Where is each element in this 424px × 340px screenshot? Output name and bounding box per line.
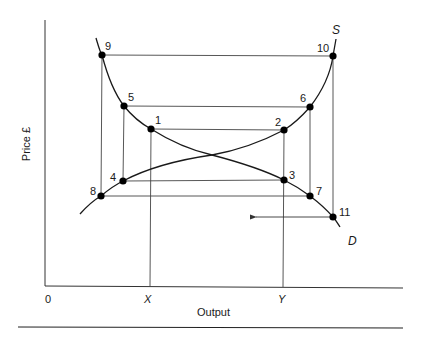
point-label-4: 4 [110, 172, 116, 183]
point-2 [280, 126, 287, 133]
point-label-11: 11 [339, 207, 350, 218]
point-label-5: 5 [128, 92, 134, 103]
point-1 [147, 125, 154, 132]
point-label-8: 8 [90, 186, 96, 197]
line-5-6 [124, 106, 310, 107]
point-5 [120, 102, 127, 109]
line-1-X [150, 129, 151, 286]
line-2-Y [283, 130, 284, 287]
line-1-2 [151, 129, 284, 130]
x-axis [45, 286, 403, 288]
point-8 [97, 192, 104, 199]
point-label-9: 9 [105, 41, 111, 52]
point-label-1: 1 [155, 115, 161, 126]
point-6 [306, 103, 313, 110]
point-4 [119, 177, 126, 184]
cobweb-diagram [0, 0, 424, 340]
x-axis-label: Output [197, 307, 230, 318]
point-11 [329, 213, 336, 220]
line-4-3 [123, 180, 284, 181]
cobweb-lines [101, 55, 333, 287]
point-label-10: 10 [317, 43, 329, 54]
y-axis-label: Price £ [20, 124, 32, 164]
line-9-10 [102, 55, 333, 56]
x-tick-label-X: X [144, 294, 151, 305]
point-label-3: 3 [289, 170, 295, 181]
origin-label: 0 [45, 294, 51, 305]
point-7 [306, 192, 313, 199]
point-10 [329, 52, 336, 59]
point-3 [280, 176, 287, 183]
point-label-2: 2 [275, 117, 281, 128]
point-9 [98, 51, 105, 58]
supply-curve-label: S [332, 25, 340, 36]
bottom-rule [18, 327, 403, 328]
line-5-4 [123, 106, 124, 181]
demand-curve-label: D [348, 236, 357, 247]
point-label-7: 7 [316, 186, 322, 197]
demand-curve [96, 38, 340, 227]
equilibrium-points [97, 51, 336, 220]
point-label-6: 6 [300, 93, 306, 104]
x-tick-label-Y: Y [278, 294, 285, 305]
line-9-8 [101, 55, 102, 196]
